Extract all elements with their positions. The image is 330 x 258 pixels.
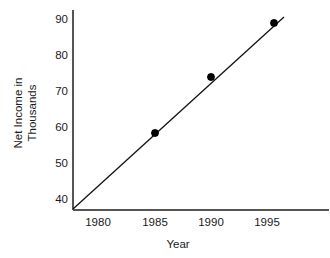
y-tick-label-60: 60 <box>55 121 68 133</box>
series-line-net-income <box>73 17 284 209</box>
y-axis-title-line2: Thousands <box>26 84 38 141</box>
data-point-marker-1995 <box>271 20 278 27</box>
data-point-marker-1985 <box>152 130 159 137</box>
line-chart: 90 80 70 60 50 40 1980 1985 1990 1995 Ye… <box>0 0 330 258</box>
x-tick-label-1990: 1990 <box>198 216 224 228</box>
data-point-marker-1990 <box>208 74 215 81</box>
y-tick-label-50: 50 <box>55 157 68 169</box>
x-tick-label-1995: 1995 <box>254 216 280 228</box>
x-tick-label-1985: 1985 <box>142 216 168 228</box>
y-axis-title-line1: Net Income in <box>12 78 24 149</box>
y-tick-label-40: 40 <box>55 193 68 205</box>
x-tick-label-1980: 1980 <box>85 216 111 228</box>
x-axis-title: Year <box>166 238 189 250</box>
chart-figure: 90 80 70 60 50 40 1980 1985 1990 1995 Ye… <box>0 0 330 258</box>
y-tick-label-80: 80 <box>55 49 68 61</box>
y-tick-label-70: 70 <box>55 85 68 97</box>
y-tick-label-90: 90 <box>55 13 68 25</box>
